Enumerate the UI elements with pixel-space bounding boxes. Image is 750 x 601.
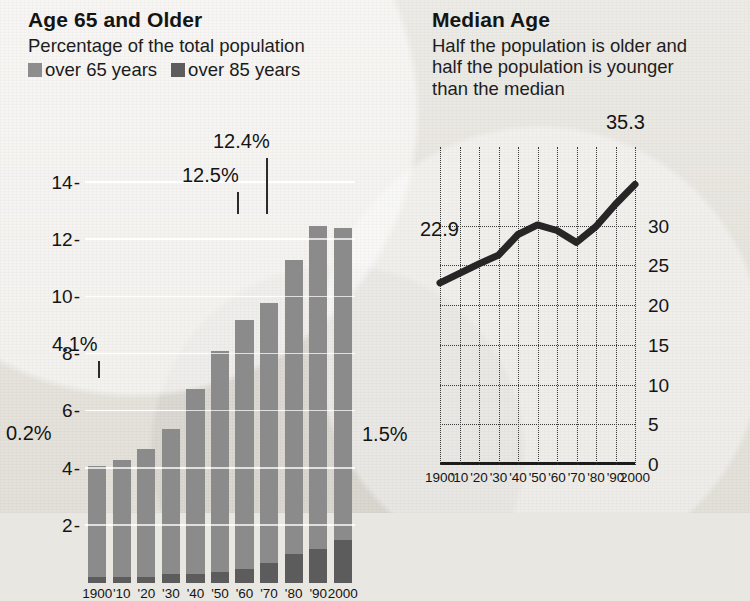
bar-x-tick-label: '30: [162, 586, 180, 601]
bar-x-tick-label: '90: [309, 586, 327, 601]
callout-median-2000: 35.3: [606, 111, 645, 134]
callout-2000-over-85-pct: 1.5%: [362, 423, 408, 446]
line-y-tick-label: 5: [648, 414, 659, 436]
line-x-tick-label: '80: [587, 470, 605, 485]
line-chart-plot-area: 0510152025301900'10'20'30'40'50'60'70'80…: [440, 147, 635, 465]
bar-segment-over-85: [162, 574, 180, 583]
bar-segment-over-65: [137, 449, 155, 583]
line-x-tick-label: '20: [470, 470, 488, 485]
bar-gridline-overlay: [85, 410, 355, 412]
line-x-tick-label: '50: [529, 470, 547, 485]
line-y-tick-label: 30: [648, 216, 669, 238]
bar-segment-over-65: [334, 228, 352, 583]
bar-segment-over-65: [162, 429, 180, 583]
legend-swatch-over-85-icon: [171, 63, 185, 77]
bar-segment-over-65: [285, 260, 303, 583]
bar-segment-over-85: [309, 549, 327, 583]
bar-chart-plot-area: 2-4-6-8-10-12-14-1900'10'20'30'40'50'60'…: [85, 154, 355, 583]
right-panel-subtitle-line-1: Half the population is older and: [432, 35, 750, 56]
bar-x-tick-label: 2000: [328, 586, 358, 601]
bar-y-tick-label: 4-: [62, 458, 80, 480]
bar-x-tick-label: '10: [113, 586, 131, 601]
bar-x-tick-label: '40: [187, 586, 205, 601]
bar-y-tick-label: 14-: [52, 172, 80, 194]
bar-y-tick-label: 2-: [62, 515, 80, 537]
median-age-line: [440, 147, 635, 465]
bar-gridline-overlay: [85, 296, 355, 298]
right-panel-title: Median Age: [432, 8, 750, 32]
line-y-tick-label: 25: [648, 255, 669, 277]
panel-age-65-and-older: Age 65 and Older Percentage of the total…: [0, 0, 420, 513]
bar-segment-over-65: [235, 320, 253, 583]
bar-column: [137, 449, 155, 583]
line-x-tick-label: '40: [509, 470, 527, 485]
bar-chart: 2-4-6-8-10-12-14-1900'10'20'30'40'50'60'…: [0, 118, 420, 513]
legend-swatch-over-65-icon: [28, 63, 42, 77]
bar-segment-over-65: [260, 303, 278, 583]
line-y-tick-label: 20: [648, 295, 669, 317]
left-panel-title: Age 65 and Older: [28, 8, 418, 32]
callout-2000-leader: [266, 158, 268, 214]
callout-1900-over-85-pct: 0.2%: [6, 422, 52, 445]
callout-1900-pct: 4.1%: [52, 333, 98, 356]
bar-x-tick-label: '70: [260, 586, 278, 601]
bar-x-tick-label: '60: [236, 586, 254, 601]
bar-segment-over-85: [137, 577, 155, 583]
bar-column: [285, 260, 303, 583]
line-x-tick-label: '70: [568, 470, 586, 485]
right-panel-subtitle-line-3: than the median: [432, 78, 750, 99]
bar-gridline-overlay: [85, 467, 355, 469]
bar-column: [113, 460, 131, 583]
line-y-tick-label: 10: [648, 375, 669, 397]
line-x-tick-label: '30: [490, 470, 508, 485]
callout-1990-leader: [237, 192, 239, 214]
bar-column: [309, 226, 327, 584]
legend-label-over-65: over 65 years: [45, 59, 157, 81]
bar-segment-over-65: [113, 460, 131, 583]
legend-entry-over-85: over 85 years: [171, 59, 300, 81]
bar-column: [334, 228, 352, 583]
legend-entry-over-65: over 65 years: [28, 59, 157, 81]
bar-x-tick-label: '80: [285, 586, 303, 601]
bar-gridline-overlay: [85, 353, 355, 355]
bar-x-tick-label: '50: [211, 586, 229, 601]
callout-1990-pct: 12.5%: [182, 164, 239, 187]
left-panel-subtitle: Percentage of the total population: [28, 35, 418, 56]
line-y-tick-label: 15: [648, 335, 669, 357]
callout-2000-pct: 12.4%: [213, 130, 270, 153]
panel-median-age: Median Age Half the population is older …: [420, 0, 750, 513]
bar-x-tick-label: '20: [138, 586, 156, 601]
bar-segment-over-85: [113, 577, 131, 583]
line-chart: 0510152025301900'10'20'30'40'50'60'70'80…: [420, 118, 750, 513]
bar-segment-over-85: [88, 577, 106, 583]
bar-gridline-overlay: [85, 238, 355, 240]
bar-y-tick-label: 6-: [62, 400, 80, 422]
bar-segment-over-85: [235, 569, 253, 583]
bar-column: [162, 429, 180, 583]
line-x-tick-label: 2000: [620, 470, 650, 485]
bar-segment-over-85: [211, 572, 229, 583]
bar-gridline-overlay: [85, 524, 355, 526]
callout-1900-leader: [98, 361, 100, 378]
bar-y-tick-label: 10-: [52, 286, 80, 308]
line-x-tick-label: '10: [451, 470, 469, 485]
bar-segment-over-65: [309, 226, 327, 584]
bar-segment-over-85: [334, 540, 352, 583]
bar-column: [186, 389, 204, 583]
bar-segment-over-85: [260, 563, 278, 583]
bar-segment-over-65: [186, 389, 204, 583]
bar-column: [260, 303, 278, 583]
bar-column: [235, 320, 253, 583]
legend-label-over-85: over 85 years: [188, 59, 300, 81]
bar-y-tick-label: 12-: [52, 229, 80, 251]
callout-median-1900: 22.9: [420, 218, 459, 241]
bar-segment-over-85: [186, 574, 204, 583]
line-gridline-vertical: [635, 147, 636, 465]
left-panel-legend: over 65 years over 85 years: [28, 59, 418, 81]
line-x-tick-label: '60: [548, 470, 566, 485]
bar-x-tick-label: 1900: [82, 586, 112, 601]
bar-segment-over-85: [285, 554, 303, 583]
right-panel-subtitle-line-2: half the population is younger: [432, 56, 750, 77]
